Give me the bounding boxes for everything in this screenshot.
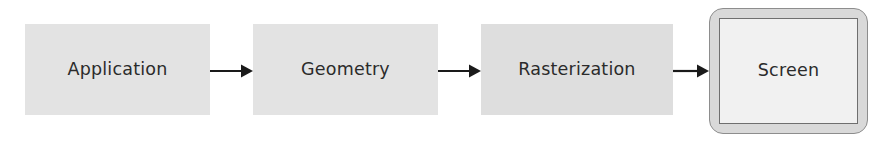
stage-node-application[interactable]: Application bbox=[25, 24, 210, 115]
stage-label-application: Application bbox=[68, 61, 168, 79]
stage-label-screen: Screen bbox=[758, 62, 819, 80]
arrow-application-to-geometry bbox=[210, 62, 253, 80]
stage-node-screen[interactable]: Screen bbox=[709, 8, 868, 134]
screen-display-area: Screen bbox=[719, 18, 858, 124]
arrow-geometry-to-rasterization bbox=[438, 62, 481, 80]
stage-label-geometry: Geometry bbox=[301, 61, 390, 79]
stage-node-geometry[interactable]: Geometry bbox=[253, 24, 438, 115]
arrow-rasterization-to-screen bbox=[673, 62, 709, 80]
pipeline-diagram: Application Geometry Rasterization Scree… bbox=[0, 0, 895, 142]
stage-node-rasterization[interactable]: Rasterization bbox=[481, 24, 673, 115]
stage-label-rasterization: Rasterization bbox=[518, 61, 635, 79]
